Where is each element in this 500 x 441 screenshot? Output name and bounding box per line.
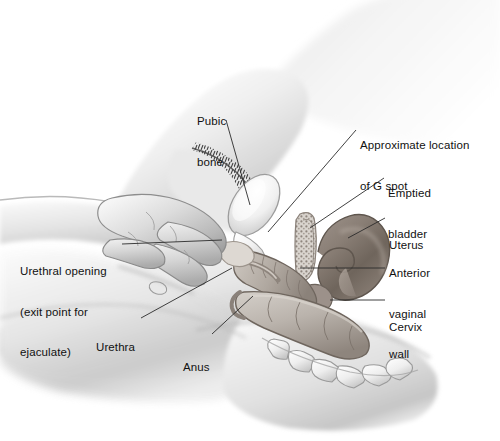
label-line: Urethral opening — [20, 265, 107, 279]
label-line: ejaculate) — [20, 346, 107, 360]
label-line: Anus — [183, 361, 210, 375]
label-line: Anterior — [389, 267, 430, 281]
label-line: Urethra — [96, 341, 135, 355]
label-line: Cervix — [389, 321, 422, 335]
label-line: (exit point for — [20, 306, 107, 320]
anatomical-figure: Pubic bone Approximate location of G spo… — [0, 0, 500, 441]
label-urethra: Urethra — [96, 314, 135, 382]
label-line: Pubic — [197, 115, 226, 129]
label-line: Emptied — [388, 187, 431, 201]
label-cervix: Cervix — [389, 294, 422, 362]
label-pubic-bone: Pubic bone — [197, 88, 226, 196]
uterus — [318, 214, 390, 300]
emptied-bladder — [295, 213, 316, 281]
label-anus: Anus — [183, 334, 210, 402]
label-urethral-opening: Urethral opening (exit point for ejacula… — [20, 238, 107, 387]
label-line: bone — [197, 156, 226, 170]
label-line: Approximate location — [360, 139, 469, 153]
